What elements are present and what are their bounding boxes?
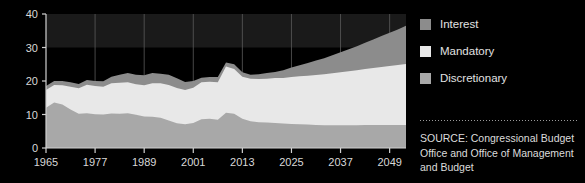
legend-swatch-interest [420,19,431,30]
legend-label-discretionary: Discretionary [440,72,507,85]
legend-swatch-discretionary [420,73,431,84]
svg-text:1977: 1977 [83,156,107,168]
svg-text:2001: 2001 [181,156,205,168]
y-axis-ticks: 010203040 [26,8,46,154]
source-divider [420,120,578,121]
stacked-area-chart: 010203040 196519771989200120132025203720… [0,0,410,183]
svg-text:20: 20 [26,75,38,87]
svg-text:1965: 1965 [34,156,58,168]
source-note: SOURCE: Congressional Budget Office and … [420,131,583,175]
svg-text:40: 40 [26,8,38,20]
svg-text:2013: 2013 [230,156,254,168]
chart-figure: 010203040 196519771989200120132025203720… [0,0,585,183]
legend-and-source-panel: Interest Mandatory Discretionary SOURCE:… [415,0,585,183]
legend-item-mandatory: Mandatory [420,45,494,58]
svg-text:2049: 2049 [377,156,401,168]
x-axis-ticks: 19651977198920012013202520372049 [34,148,402,168]
svg-text:30: 30 [26,42,38,54]
chart-plot-region: 010203040 196519771989200120132025203720… [0,0,410,183]
upper-background-band [46,14,406,48]
legend-swatch-mandatory [420,46,431,57]
legend-label-mandatory: Mandatory [440,45,494,58]
legend-item-discretionary: Discretionary [420,72,507,85]
svg-text:0: 0 [32,142,38,154]
legend-label-interest: Interest [440,18,478,31]
svg-text:10: 10 [26,109,38,121]
legend-item-interest: Interest [420,18,478,31]
svg-text:1989: 1989 [132,156,156,168]
svg-text:2037: 2037 [328,156,352,168]
svg-text:2025: 2025 [279,156,303,168]
